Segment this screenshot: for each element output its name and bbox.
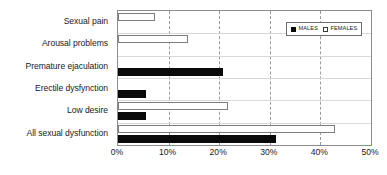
legend-label-males: MALES bbox=[299, 26, 318, 32]
bar-males bbox=[118, 135, 276, 143]
category-label-erectile-dysfunction: Erectile dysfynction bbox=[0, 77, 113, 99]
bar-group bbox=[118, 33, 371, 55]
category-label-arousal-problems: Arousal problems bbox=[0, 32, 113, 54]
legend-entry-males: MALES bbox=[291, 26, 318, 32]
xtick-label-20%: 20% bbox=[210, 148, 227, 157]
xtick-label-0%: 0% bbox=[111, 148, 123, 157]
xtick-label-50%: 50% bbox=[361, 148, 378, 157]
bar-males bbox=[118, 68, 223, 76]
value-axis-labels: 0%10%20%30%40%50% bbox=[117, 148, 370, 164]
legend-entry-females: FEMALES bbox=[323, 26, 357, 32]
bar-group bbox=[118, 100, 371, 122]
bar-males bbox=[118, 112, 146, 120]
xtick-label-30%: 30% bbox=[260, 148, 277, 157]
bar-males bbox=[118, 90, 146, 98]
category-axis-labels: Sexual pain Arousal problems Premature e… bbox=[0, 10, 113, 144]
legend-label-females: FEMALES bbox=[330, 26, 357, 32]
xtick-label-40%: 40% bbox=[311, 148, 328, 157]
chart-legend: MALES FEMALES bbox=[286, 22, 362, 36]
filled-square-icon bbox=[291, 27, 296, 32]
category-label-premature-ejaculation: Premature ejaculation bbox=[0, 55, 113, 77]
bar-females bbox=[118, 35, 188, 43]
bar-females bbox=[118, 125, 335, 133]
bar-group bbox=[118, 123, 371, 145]
xtick-label-10%: 10% bbox=[159, 148, 176, 157]
bar-females bbox=[118, 13, 155, 21]
bar-chart-figure: Sexual pain Arousal problems Premature e… bbox=[0, 0, 387, 175]
category-label-all-sexual-dysfunction: All sexual dysfunction bbox=[0, 122, 113, 144]
open-square-icon bbox=[323, 27, 328, 32]
category-label-sexual-pain: Sexual pain bbox=[0, 10, 113, 32]
bar-group bbox=[118, 78, 371, 100]
category-label-low-desire: Low desire bbox=[0, 99, 113, 121]
bar-group bbox=[118, 56, 371, 78]
bar-females bbox=[118, 102, 228, 110]
